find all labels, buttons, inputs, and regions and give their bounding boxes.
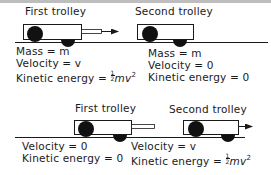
top-first-trolley-label: First trolley — [25, 5, 86, 17]
ke-expr: mv — [230, 155, 247, 167]
bottom-second-trolley-label: Second trolley — [169, 103, 247, 115]
wheel-icon — [27, 26, 43, 42]
plunger-icon — [132, 125, 155, 129]
wheel-icon — [113, 135, 127, 142]
ke-prefix: Kinetic energy = — [16, 72, 111, 84]
bottom-second-kinetic-energy: Kinetic energy = 12mv2 — [131, 152, 251, 167]
ke-exp: 2 — [246, 154, 251, 162]
bottom-second-trolley — [184, 121, 253, 143]
top-first-trolley — [24, 25, 119, 48]
bottom-second-velocity: Velocity = v — [131, 140, 196, 152]
ke-prefix: Kinetic energy = — [131, 155, 226, 167]
bottom-first-kinetic-energy: Kinetic energy = 0 — [22, 152, 123, 164]
top-first-velocity: Velocity = v — [16, 57, 81, 69]
ke-exp: 2 — [131, 71, 136, 79]
wheel-icon — [173, 40, 187, 47]
wheel-icon — [142, 26, 158, 42]
top-second-trolley-label: Second trolley — [135, 5, 213, 17]
top-second-velocity: Velocity = 0 — [148, 59, 214, 71]
ke-expr: mv — [115, 72, 132, 84]
bottom-first-velocity: Velocity = 0 — [22, 140, 88, 152]
wheel-icon — [221, 135, 235, 142]
top-second-mass: Mass = m — [148, 47, 202, 59]
wheel-icon — [78, 121, 94, 137]
top-first-mass: Mass = m — [16, 45, 70, 57]
top-second-trolley — [138, 25, 194, 48]
plunger-icon — [82, 30, 102, 34]
bottom-first-trolley-label: First trolley — [75, 102, 136, 114]
top-second-kinetic-energy: Kinetic energy = 0 — [148, 71, 249, 83]
bottom-first-trolley — [75, 121, 155, 143]
wheel-icon — [188, 121, 204, 137]
top-first-kinetic-energy: Kinetic energy = 12mv2 — [16, 69, 136, 84]
